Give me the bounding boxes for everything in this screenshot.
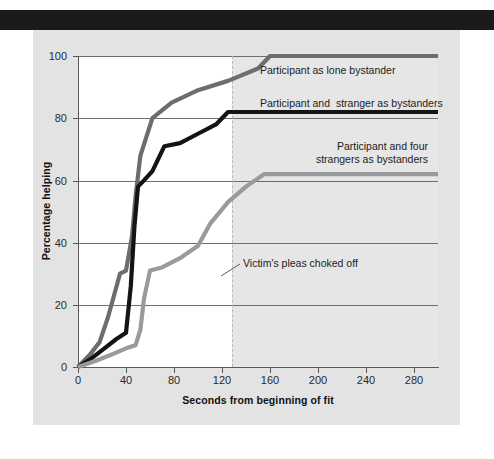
series-label-four-strangers-line2: strangers as bystanders	[278, 153, 428, 166]
line-chart: 100 80 60 40 20 0 0 40 80 120 160 200 24…	[0, 0, 494, 459]
series-curves-layer	[0, 0, 494, 459]
series-label-four-strangers-line1: Participant and four	[278, 140, 428, 153]
page-root: 100 80 60 40 20 0 0 40 80 120 160 200 24…	[0, 0, 494, 459]
series-label-lone-bystander: Participant as lone bystander	[260, 64, 395, 77]
annotation-leader-line	[221, 264, 240, 276]
annotation-victim-pleas-choked-off: Victim's pleas choked off	[243, 257, 358, 269]
series-label-one-stranger: Participant and stranger as bystanders	[260, 97, 443, 110]
